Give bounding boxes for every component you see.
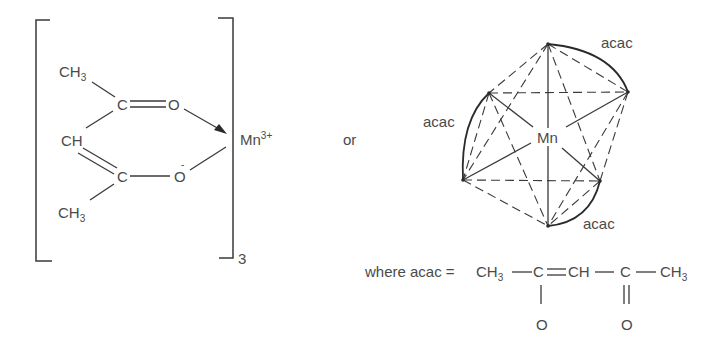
def-c2: C <box>620 263 631 280</box>
structural-formula: 3 CH3 C O CH C O - CH3 Mn3+ <box>36 18 272 267</box>
double-bond-ch-c-b <box>83 148 117 168</box>
def-o1: O <box>536 316 548 333</box>
left-bracket <box>36 20 52 261</box>
acac-label-top-right: acac <box>601 34 633 51</box>
bond-c-ch3-bottom <box>90 184 114 200</box>
bond-o-mn <box>190 147 226 170</box>
definition-prefix: where acac = <box>364 263 455 280</box>
oxygen-upper-label: O <box>168 96 180 113</box>
or-connector: or <box>343 131 356 148</box>
ch-middle-label: CH <box>61 132 83 149</box>
acac-label-bottom-right: acac <box>583 215 615 232</box>
carbon-upper-label: C <box>117 96 128 113</box>
octahedron-diagram: Mn acac acac acac <box>423 34 633 232</box>
acac-label-left: acac <box>423 113 455 130</box>
def-ch3-right: CH3 <box>660 263 688 283</box>
octahedron-mn-label: Mn <box>537 129 558 146</box>
def-o2: O <box>621 316 633 333</box>
dative-bond <box>184 109 219 129</box>
acac-definition: where acac = CH3 C CH C CH3 O O <box>364 263 688 333</box>
mn-acac-diagram: 3 CH3 C O CH C O - CH3 Mn3+ or <box>0 0 723 347</box>
arrowhead-icon <box>214 124 227 134</box>
manganese-label: Mn3+ <box>240 130 272 148</box>
oxygen-lower-label: O <box>174 168 186 185</box>
oxygen-negative-charge: - <box>181 159 184 170</box>
bond-c-ch <box>86 111 113 128</box>
axis-upper-left <box>489 93 533 127</box>
def-ch3-left: CH3 <box>476 263 504 283</box>
right-bracket <box>218 18 233 258</box>
carbon-lower-label: C <box>117 168 128 185</box>
axis-lower-left <box>463 143 531 180</box>
bracket-subscript: 3 <box>238 250 246 267</box>
ch3-top-label: CH3 <box>59 63 87 83</box>
bond-ch3-c-upper <box>92 82 115 97</box>
def-ch: CH <box>568 263 590 280</box>
def-c1: C <box>533 263 544 280</box>
ch3-bottom-label: CH3 <box>58 204 86 224</box>
